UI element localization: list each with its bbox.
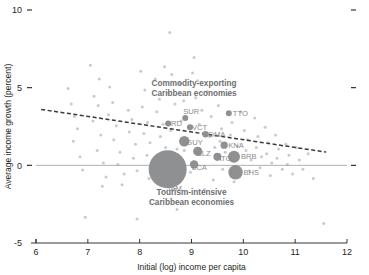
caribbean-bubble-jam <box>149 150 187 188</box>
background-point <box>97 104 100 107</box>
background-point <box>89 64 92 67</box>
background-point <box>104 175 107 178</box>
background-point <box>107 113 110 116</box>
background-point <box>164 146 167 149</box>
background-point <box>96 149 99 152</box>
background-point <box>193 56 196 59</box>
tourism-intensive-label-line1: Tourism-intensive <box>157 188 227 197</box>
background-point <box>253 116 256 119</box>
background-point <box>265 152 268 155</box>
scatter-chart: TTOSURGRDVCTDMAGUYKNABLZATGBRBLCABHSJAM … <box>0 0 369 275</box>
background-point <box>118 151 121 154</box>
country-label-vct: VCT <box>192 123 208 132</box>
background-point <box>170 73 173 76</box>
background-point <box>212 179 215 182</box>
background-point <box>200 109 203 112</box>
background-point <box>149 141 152 144</box>
background-point <box>168 31 171 34</box>
background-point <box>84 216 87 219</box>
background-point <box>93 95 96 98</box>
background-point <box>301 168 304 171</box>
background-point <box>73 115 76 118</box>
background-point <box>224 151 227 154</box>
background-point <box>79 155 82 158</box>
background-point <box>287 154 290 157</box>
country-label-tto: TTO <box>233 109 248 118</box>
x-axis-title: Initial (log) income per capita <box>137 262 246 272</box>
background-point <box>182 99 185 102</box>
country-label-sur: SUR <box>183 107 200 116</box>
background-point <box>264 126 267 129</box>
background-point <box>76 127 79 130</box>
background-point <box>115 124 118 127</box>
background-point <box>127 109 130 112</box>
background-point <box>217 104 220 107</box>
country-label-bhs: BHS <box>244 168 260 177</box>
background-point <box>230 121 233 124</box>
background-point <box>146 121 149 124</box>
background-point <box>277 148 280 151</box>
country-label-atg: ATG <box>216 154 231 163</box>
background-point <box>136 217 139 220</box>
background-point <box>159 135 162 138</box>
x-tick-label: 10 <box>238 247 248 257</box>
background-point <box>163 65 166 68</box>
background-point <box>101 185 104 188</box>
country-label-dma: DMA <box>208 130 226 139</box>
country-label-kna: KNA <box>228 141 245 150</box>
background-point <box>322 222 325 225</box>
commodity-exporting-label-line2: Caribbean economies <box>152 89 238 98</box>
background-point <box>298 158 301 161</box>
background-point <box>291 172 294 175</box>
background-point <box>145 154 148 157</box>
background-point <box>143 89 146 92</box>
background-point <box>269 174 272 177</box>
background-point <box>148 177 151 180</box>
background-point <box>281 168 284 171</box>
background-point <box>136 169 139 172</box>
background-point <box>210 115 213 118</box>
background-point <box>112 138 115 141</box>
y-tick-label: -5 <box>14 238 22 248</box>
background-point <box>132 157 135 160</box>
background-point <box>142 132 145 135</box>
x-tick-label: 8 <box>137 247 142 257</box>
background-point <box>274 134 277 137</box>
background-point <box>276 157 279 160</box>
x-tick-label: 9 <box>189 247 194 257</box>
background-point <box>173 102 176 105</box>
country-label-blz: BLZ <box>197 149 211 158</box>
axis-layer: 67891011121050-5Initial (log) income per… <box>3 5 356 272</box>
background-point <box>67 87 70 90</box>
background-point <box>229 134 232 137</box>
caribbean-bubble-bhs <box>228 165 242 179</box>
background-point <box>256 135 259 138</box>
background-point <box>161 123 164 126</box>
background-point <box>260 155 263 158</box>
background-point <box>155 110 158 113</box>
x-tick-label: 6 <box>33 247 38 257</box>
x-tick-label: 11 <box>290 247 299 257</box>
background-point <box>233 180 236 183</box>
background-point <box>219 140 222 143</box>
background-point <box>70 102 73 105</box>
background-point <box>134 143 137 146</box>
country-label-brb: BRB <box>241 152 257 161</box>
background-point <box>123 172 126 175</box>
commodity-exporting-label-line1: Commodity-exporting <box>152 79 237 88</box>
x-tick-label: 12 <box>342 247 352 257</box>
background-point <box>139 70 142 73</box>
background-point <box>243 129 246 132</box>
caribbean-bubble-kna <box>221 142 228 149</box>
y-axis-title: Average income growth (percent) <box>3 64 13 190</box>
background-point <box>72 140 75 143</box>
background-point <box>191 71 194 74</box>
background-point <box>108 85 111 88</box>
background-point <box>130 118 133 121</box>
country-label-grd: GRD <box>165 119 182 128</box>
y-tick-label: 5 <box>17 83 22 93</box>
chart-svg: TTOSURGRDVCTDMAGUYKNABLZATGBRBLCABHSJAM … <box>0 0 369 275</box>
background-point <box>158 98 161 101</box>
background-point <box>98 78 101 81</box>
background-point <box>175 208 178 211</box>
